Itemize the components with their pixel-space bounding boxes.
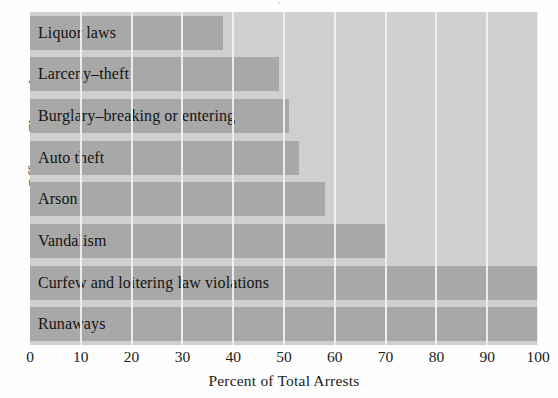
bar-category-label: Runaways — [38, 307, 105, 341]
bar-row[interactable]: Arson — [30, 182, 538, 216]
x-tick-label: 90 — [479, 348, 495, 366]
bar-series: Liquor lawsLarceny–theftBurglary–breakin… — [30, 12, 538, 345]
bar-row[interactable]: Vandalism — [30, 224, 538, 258]
bar-category-label: Curfew and loitering law violations — [38, 266, 269, 300]
bar-category-label: Larceny–theft — [38, 57, 129, 91]
x-tick-label: 50 — [276, 348, 292, 366]
bar-row[interactable]: Runaways — [30, 307, 538, 341]
x-tick-label: 100 — [526, 348, 549, 366]
bar-row[interactable]: Curfew and loitering law violations — [30, 266, 538, 300]
bar-row[interactable]: Liquor laws — [30, 16, 538, 50]
bar[interactable] — [30, 307, 538, 341]
x-tick-label: 0 — [26, 348, 34, 366]
bar-category-label: Vandalism — [38, 224, 106, 258]
bar-category-label: Arson — [38, 182, 78, 216]
bar-category-label: Burglary–breaking or entering — [38, 99, 235, 133]
bar-chart-figure: · Offense Charged Liquor lawsLarceny–the… — [0, 0, 558, 398]
x-tick-label: 30 — [175, 348, 191, 366]
x-tick-label: 70 — [378, 348, 394, 366]
chart-title-remnant: · — [0, 0, 558, 9]
bar-category-label: Auto theft — [38, 141, 104, 175]
plot-area: Liquor lawsLarceny–theftBurglary–breakin… — [30, 12, 538, 345]
x-tick-label: 60 — [327, 348, 343, 366]
x-tick-label: 80 — [429, 348, 445, 366]
bar-row[interactable]: Burglary–breaking or entering — [30, 99, 538, 133]
x-tick-label: 10 — [73, 348, 89, 366]
bar-row[interactable]: Larceny–theft — [30, 57, 538, 91]
bar-category-label: Liquor laws — [38, 16, 116, 50]
x-axis-title: Percent of Total Arrests — [30, 372, 538, 390]
x-axis-tick-labels: 0102030405060708090100 — [30, 348, 538, 370]
x-tick-label: 20 — [124, 348, 140, 366]
bar-row[interactable]: Auto theft — [30, 141, 538, 175]
x-tick-label: 40 — [225, 348, 241, 366]
